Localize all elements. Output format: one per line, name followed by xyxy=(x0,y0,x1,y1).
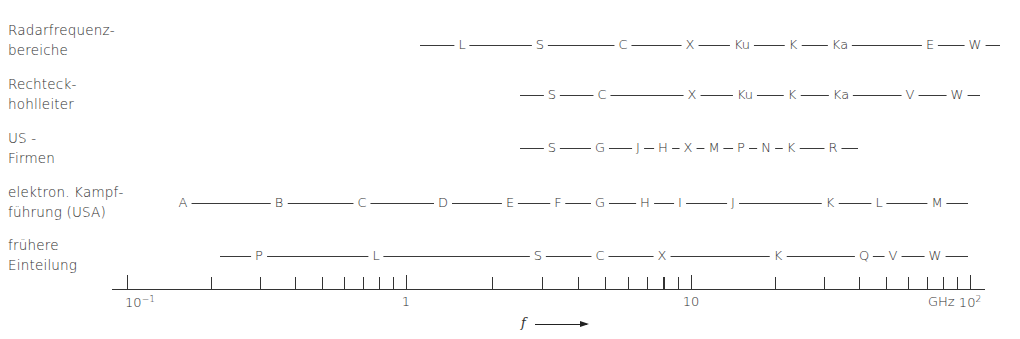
band-letter: A xyxy=(175,196,192,210)
tick-base: 10 xyxy=(683,294,700,309)
band-letter: K xyxy=(785,38,802,52)
minor-tick xyxy=(886,277,887,289)
major-tick xyxy=(691,275,692,289)
minor-tick xyxy=(393,277,394,289)
axis-tick-label: 10−1 xyxy=(125,294,155,310)
axis-unit-label: GHz xyxy=(928,294,955,309)
band-letter: M xyxy=(704,141,723,155)
band-letter: W xyxy=(925,249,946,263)
row-label: elektron. Kampf-führung (USA) xyxy=(8,182,124,222)
row-label-line: hohlleiter xyxy=(8,94,77,114)
band-letter: Ka xyxy=(828,38,852,52)
row-label-line: führung (USA) xyxy=(8,202,124,222)
minor-tick xyxy=(775,277,776,289)
row-label: frühereEinteilung xyxy=(8,235,77,275)
minor-tick xyxy=(908,277,909,289)
minor-tick xyxy=(628,277,629,289)
minor-tick xyxy=(295,277,296,289)
band-letter: J xyxy=(632,141,644,155)
band-letter: C xyxy=(614,38,631,52)
minor-tick xyxy=(678,277,679,289)
band-letter: K xyxy=(770,249,787,263)
row-label-line: frühere xyxy=(8,235,77,255)
minor-tick xyxy=(260,277,261,289)
band-range-line xyxy=(420,45,1000,46)
band-letter: N xyxy=(757,141,775,155)
band-letter: S xyxy=(544,88,560,102)
band-letter: X xyxy=(680,141,697,155)
band-letter: E xyxy=(922,38,938,52)
band-letter: S xyxy=(532,38,548,52)
band-letter: S xyxy=(544,141,560,155)
band-letter: D xyxy=(434,196,452,210)
tick-base: 10 xyxy=(125,295,142,310)
minor-tick xyxy=(943,277,944,289)
band-letter: P xyxy=(251,249,267,263)
band-letter: J xyxy=(727,196,739,210)
minor-tick xyxy=(957,277,958,289)
band-letter: L xyxy=(871,196,886,210)
band-letter: P xyxy=(733,141,749,155)
row-label: US -Firmen xyxy=(8,128,55,168)
minor-tick xyxy=(322,277,323,289)
minor-tick xyxy=(542,277,543,289)
band-letter: S xyxy=(530,249,546,263)
minor-tick xyxy=(344,277,345,289)
band-letter: X xyxy=(682,38,699,52)
band-letter: F xyxy=(550,196,565,210)
band-letter: G xyxy=(591,141,609,155)
band-letter: C xyxy=(353,196,370,210)
band-letter: I xyxy=(674,196,686,210)
minor-tick xyxy=(379,277,380,289)
axis-tick-label: 102 xyxy=(959,294,981,310)
band-letter: V xyxy=(902,88,919,102)
major-tick xyxy=(127,275,128,289)
arrow-right-icon xyxy=(535,324,587,325)
major-tick xyxy=(970,275,971,289)
band-letter: L xyxy=(454,38,469,52)
minor-tick xyxy=(859,277,860,289)
row-label-line: Rechteck- xyxy=(8,74,77,94)
row-label-line: Einteilung xyxy=(8,255,77,275)
minor-tick xyxy=(605,277,606,289)
band-range-line xyxy=(183,203,968,204)
tick-exponent: −1 xyxy=(142,294,155,304)
row-label-line: bereiche xyxy=(8,40,115,60)
band-letter: R xyxy=(824,141,841,155)
band-letter: Q xyxy=(855,249,873,263)
row-label-line: Firmen xyxy=(8,148,55,168)
row-label-line: Radarfrequenz- xyxy=(8,20,115,40)
tick-base: 10 xyxy=(959,295,976,310)
minor-tick xyxy=(492,277,493,289)
band-letter: X xyxy=(684,88,701,102)
band-letter: K xyxy=(783,141,800,155)
minor-tick xyxy=(363,277,364,289)
band-letter: Ka xyxy=(829,88,853,102)
band-letter: Ku xyxy=(733,88,757,102)
frequency-symbol: f xyxy=(521,315,526,330)
band-letter: C xyxy=(593,88,610,102)
major-tick xyxy=(406,275,407,289)
minor-tick xyxy=(647,277,648,289)
row-label-line: US - xyxy=(8,128,55,148)
minor-tick xyxy=(663,277,664,289)
minor-tick xyxy=(578,277,579,289)
minor-tick xyxy=(927,277,928,289)
band-letter: L xyxy=(368,249,383,263)
band-letter: M xyxy=(927,196,946,210)
minor-tick xyxy=(211,277,212,289)
tick-base: 1 xyxy=(402,294,410,309)
band-letter: K xyxy=(822,196,839,210)
band-letter: H xyxy=(636,196,654,210)
band-letter: G xyxy=(591,196,609,210)
band-letter: W xyxy=(947,88,968,102)
axis-tick-label: 1 xyxy=(402,294,410,309)
row-label-line: elektron. Kampf- xyxy=(8,182,124,202)
row-label: Rechteck-hohlleiter xyxy=(8,74,77,114)
band-letter: V xyxy=(885,249,902,263)
band-letter: E xyxy=(502,196,518,210)
band-letter: Ku xyxy=(730,38,754,52)
minor-tick xyxy=(824,277,825,289)
band-letter: B xyxy=(271,196,288,210)
tick-exponent: 2 xyxy=(975,294,981,304)
